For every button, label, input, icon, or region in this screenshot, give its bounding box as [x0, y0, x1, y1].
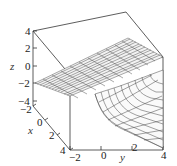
- x-tick-4: 4: [60, 145, 66, 156]
- z-tick-2: 2: [25, 43, 31, 54]
- y-tick-neg2: −2: [69, 152, 81, 163]
- x-tick-0: 0: [37, 117, 43, 128]
- z-tick-0: 0: [25, 61, 31, 72]
- x-tick-2: 2: [49, 130, 55, 141]
- x-axis-label: x: [28, 125, 33, 136]
- z-axis-label: z: [10, 61, 14, 72]
- x-tick-neg2: −2: [20, 104, 32, 115]
- y-tick-4: 4: [161, 150, 167, 161]
- y-tick-2: 2: [132, 142, 138, 153]
- surface-lower-mesh: [95, 70, 163, 148]
- y-tick-0: 0: [101, 150, 107, 161]
- z-tick-neg2: −2: [18, 78, 30, 89]
- z-tick-4: 4: [25, 26, 31, 37]
- y-axis-label: y: [120, 152, 125, 163]
